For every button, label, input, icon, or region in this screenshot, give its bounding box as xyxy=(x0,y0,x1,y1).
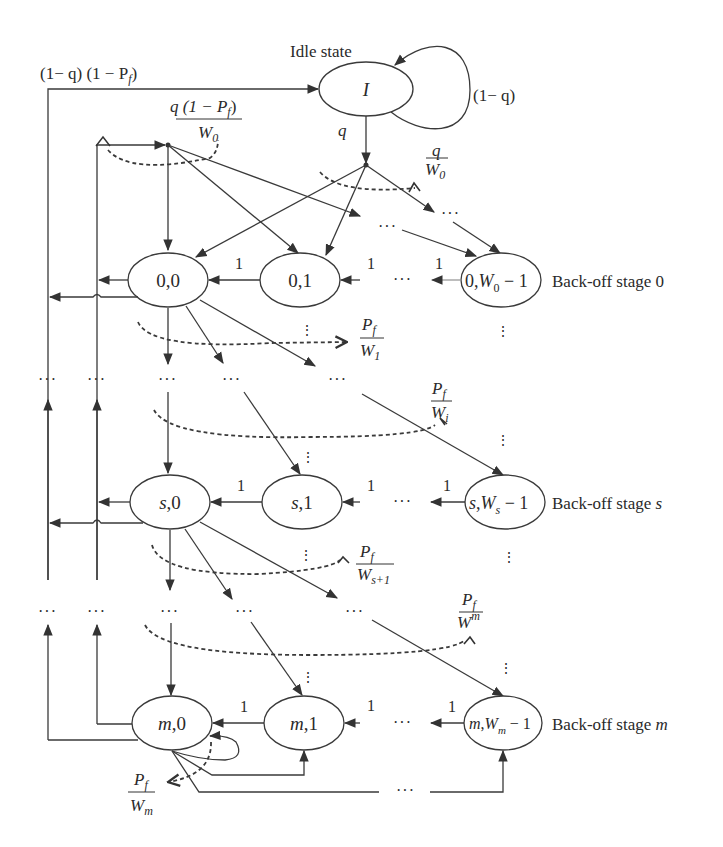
svg-text:Wm: Wm xyxy=(457,609,480,632)
state-s-Ws-1: s,Ws − 1 xyxy=(465,475,545,529)
mid1-ellipsis-col1: ··· xyxy=(38,371,57,388)
m0-to-mWm-bottom-line-a xyxy=(172,751,379,792)
svg-text:Ws+1: Ws+1 xyxy=(357,565,390,587)
row0-upper-ellipsis-1: ··· xyxy=(378,218,397,235)
row0-upper-ellipsis-2: ··· xyxy=(441,205,460,222)
mid-to-s1-arrow xyxy=(244,392,300,474)
state-0-1: 0,1 xyxy=(260,253,340,307)
idle-to-00-arrow xyxy=(196,165,366,257)
row0-transition-label-3: 1 xyxy=(435,255,443,272)
svg-text:Pf: Pf xyxy=(133,770,149,792)
svg-text:Wi: Wi xyxy=(431,403,449,425)
fraction-pf-w1: Pf W1 xyxy=(360,315,384,363)
00-to-outer-left-arrow xyxy=(50,295,138,298)
mid1-ellipsis-col4: ··· xyxy=(222,371,241,388)
state-m-Wm-1: m,Wm − 1 xyxy=(464,696,542,750)
rows-transition-label-2: 1 xyxy=(367,477,375,494)
rows-vertical-ellipsis-3: ⋮ xyxy=(299,548,313,563)
rows-transition-label-3: 1 xyxy=(443,477,451,494)
state-m-0: m,0 xyxy=(132,696,212,750)
svg-text:Pf: Pf xyxy=(431,379,447,401)
row0-transition-label-1: 1 xyxy=(235,255,243,272)
m-vertical-ellipsis-1: ⋮ xyxy=(301,670,315,685)
rows-transition-label-1: 1 xyxy=(237,477,245,494)
row0-middle-ellipsis: ··· xyxy=(393,271,412,288)
idle-fraction-label: q W0 xyxy=(425,141,448,182)
idle-dashed-arc xyxy=(320,172,415,190)
rows-arc-caret xyxy=(338,557,349,563)
mid2-ellipsis-col4: ··· xyxy=(235,603,254,620)
00-down-arrow-2 xyxy=(186,306,223,363)
idle-to-dots-arrow xyxy=(366,165,434,212)
idle-out-label: q xyxy=(338,121,347,140)
state-m-1: m,1 xyxy=(264,696,344,750)
idle-to-01-arrow xyxy=(326,165,366,255)
m0-to-mWm-bottom-line-b xyxy=(430,751,503,792)
svg-text:m,0: m,0 xyxy=(158,713,186,734)
top-return-label: (1− q) (1 − Pf) xyxy=(40,64,137,86)
svg-text:W0: W0 xyxy=(198,123,218,145)
svg-text:0,1: 0,1 xyxy=(288,270,312,291)
dots-to-0W0-arrow-2 xyxy=(453,222,500,253)
diagram-svg: Idle state I (1− q) (1− q) (1 − Pf) q (1… xyxy=(0,0,723,847)
mid2-arc-caret xyxy=(464,637,475,644)
svg-text:Wm: Wm xyxy=(130,796,153,818)
idle-state-node: I xyxy=(319,62,413,116)
svg-text:m,1: m,1 xyxy=(290,713,318,734)
row0-transition-label-2: 1 xyxy=(367,255,375,272)
markov-chain-diagram: Idle state I (1− q) (1− q) (1 − Pf) q (1… xyxy=(0,0,723,847)
mid2-ellipsis-col1: ··· xyxy=(38,603,57,620)
m-transition-label-2: 1 xyxy=(367,697,375,714)
state-s-0: s,0 xyxy=(130,475,210,529)
svg-text:s,0: s,0 xyxy=(159,492,181,513)
row0-vertical-ellipsis-2: ⋮ xyxy=(496,324,510,339)
fraction-pf-wm-lower: Pf Wm xyxy=(128,770,155,818)
svg-text:s,1: s,1 xyxy=(291,492,313,513)
entry-dashed-arc xyxy=(108,140,218,165)
stage-0-caption: Back-off stage 0 xyxy=(552,272,664,291)
00-down-arrow-3 xyxy=(200,300,315,366)
svg-text:W1: W1 xyxy=(360,341,380,363)
mid2-ellipsis-col3: ··· xyxy=(160,603,179,620)
state-0-W0-1: 0,W0 − 1 xyxy=(461,253,541,307)
m-vertical-ellipsis-2: ⋮ xyxy=(499,661,513,676)
mid-to-m1-arrow xyxy=(251,622,302,695)
s0-down-arrow-3 xyxy=(200,522,337,598)
m-transition-label-3: 1 xyxy=(448,698,456,715)
entry-fraction-label: q (1 − Pf) W0 xyxy=(170,97,242,145)
fraction-pf-ws1: Pf Ws+1 xyxy=(356,542,394,587)
state-0-0: 0,0 xyxy=(128,253,208,307)
svg-text:0,0: 0,0 xyxy=(156,270,180,291)
mid1-dashed-arc xyxy=(154,410,435,437)
mid2-ellipsis-col5: ··· xyxy=(345,603,364,620)
svg-text:q: q xyxy=(432,141,441,160)
mid1-ellipsis-col2: ··· xyxy=(87,371,106,388)
idle-self-loop-label: (1− q) xyxy=(473,86,515,105)
dots-to-0W0-arrow-1 xyxy=(402,230,476,256)
m-bottom-ellipsis: ··· xyxy=(396,782,415,799)
m-middle-ellipsis: ··· xyxy=(393,714,412,731)
fraction-pf-wm-upper: Pf Wm xyxy=(457,590,483,632)
svg-text:Pf: Pf xyxy=(359,542,375,564)
row0-vertical-ellipsis-1: ⋮ xyxy=(300,323,314,338)
svg-text:W0: W0 xyxy=(425,160,445,182)
row0-dashed-arc xyxy=(138,322,347,344)
stage-m-caption: Back-off stage m xyxy=(552,715,668,734)
rows-vertical-ellipsis-1: ⋮ xyxy=(301,450,315,465)
stage-s-caption: Back-off stage s xyxy=(552,494,663,513)
fraction-pf-wi: Pf Wi xyxy=(431,379,452,425)
m-transition-label-1: 1 xyxy=(240,698,248,715)
mid1-ellipsis-col3: ··· xyxy=(158,371,177,388)
mid2-dashed-arc xyxy=(145,625,465,655)
s0-down-arrow-2 xyxy=(185,529,232,599)
mid-to-mWm-arrow xyxy=(372,620,503,696)
rows-vertical-ellipsis-2: ⋮ xyxy=(496,433,510,448)
mid2-ellipsis-col2: ··· xyxy=(87,603,106,620)
svg-text:q (1 − Pf): q (1 − Pf) xyxy=(170,97,236,119)
idle-state-caption: Idle state xyxy=(290,42,352,61)
svg-text:Pf: Pf xyxy=(361,315,377,337)
mid1-ellipsis-col5: ··· xyxy=(328,371,347,388)
state-s-1: s,1 xyxy=(262,475,342,529)
rows-middle-ellipsis: ··· xyxy=(393,493,412,510)
rows-vertical-ellipsis-4: ⋮ xyxy=(502,550,516,565)
